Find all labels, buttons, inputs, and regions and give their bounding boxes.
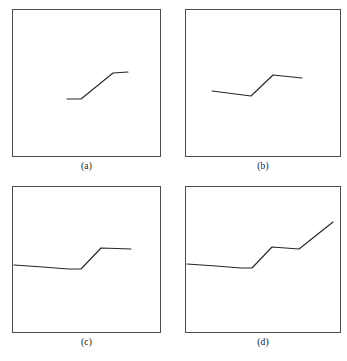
panel-b-frame	[185, 9, 341, 157]
panel-b-caption: (b)	[185, 161, 341, 172]
series-line-c	[14, 248, 131, 269]
panel-b-plot	[186, 10, 342, 158]
panel-d-caption: (d)	[185, 337, 341, 348]
panel-d-frame	[185, 186, 341, 333]
panel-d: (d)	[185, 186, 341, 358]
panel-a-frame	[12, 9, 161, 157]
panel-c-caption: (c)	[12, 337, 161, 348]
series-line-b	[212, 75, 302, 96]
panel-b: (b)	[185, 9, 341, 179]
panel-a-caption: (a)	[12, 161, 161, 172]
figure-panel-grid: (a) (b) (c) (d)	[0, 0, 347, 361]
panel-a-plot	[13, 10, 162, 158]
panel-c-plot	[13, 187, 162, 334]
series-line-d	[187, 222, 333, 268]
panel-a: (a)	[12, 9, 161, 179]
series-line-a	[67, 72, 128, 99]
panel-d-plot	[186, 187, 342, 334]
panel-c: (c)	[12, 186, 161, 358]
panel-c-frame	[12, 186, 161, 333]
